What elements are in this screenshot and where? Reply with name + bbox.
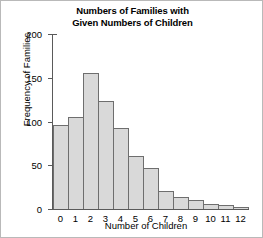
histogram-figure: Numbers of Families with Given Numbers o…	[0, 0, 263, 238]
bar-series	[53, 34, 248, 209]
x-axis-title: Number of Children	[41, 220, 251, 231]
bar-4	[113, 128, 129, 209]
y-tick-label-200: 200	[26, 29, 42, 40]
y-tick-label-150: 150	[26, 73, 42, 84]
bar-7	[158, 191, 174, 209]
y-tick-label-100: 100	[26, 117, 42, 128]
bar-5	[128, 156, 144, 209]
bar-9	[188, 200, 204, 209]
x-axis-line	[52, 209, 249, 210]
bar-3	[98, 101, 114, 209]
chart-title-line-1: Numbers of Families with	[25, 5, 240, 17]
y-tick-label-50: 50	[31, 160, 42, 171]
y-tick-0: 0	[48, 209, 53, 210]
bar-8	[173, 197, 189, 209]
bar-0	[53, 125, 69, 209]
plot-area: 050100150200 0123456789101112	[52, 34, 248, 209]
bar-6	[143, 168, 159, 209]
bar-11	[218, 205, 234, 209]
bar-1	[68, 117, 84, 209]
chart-title: Numbers of Families with Given Numbers o…	[25, 5, 240, 28]
y-tick-label-0: 0	[37, 204, 42, 215]
chart-title-line-2: Given Numbers of Children	[25, 17, 240, 29]
bar-10	[203, 204, 219, 209]
bar-12	[233, 207, 249, 209]
bar-2	[83, 73, 99, 209]
